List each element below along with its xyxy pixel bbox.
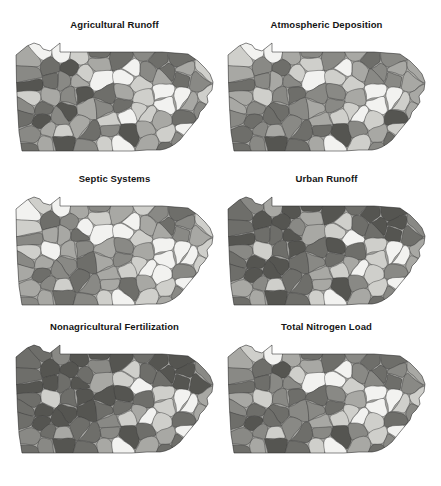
watershed-polygon <box>411 409 429 446</box>
watershed-polygon <box>171 434 188 464</box>
watershed-polygon <box>42 227 58 243</box>
watershed-polygon <box>254 227 270 243</box>
map-svg <box>224 186 429 318</box>
watershed-polygon <box>394 138 429 164</box>
watershed-polygon <box>182 138 217 164</box>
watershed-polygon <box>42 375 58 391</box>
map-svg <box>12 32 217 164</box>
watershed-polygon <box>192 273 217 296</box>
watershed-polygon <box>182 440 217 466</box>
watershed-polygon <box>192 421 217 444</box>
panel-title: Nonagricultural Fertilization <box>12 320 217 334</box>
watershed-polygon <box>53 290 76 318</box>
watershed-polygon <box>265 136 288 164</box>
panel-title: Atmospheric Deposition <box>224 18 429 32</box>
watershed-polygon <box>199 261 217 298</box>
watershed-polygon <box>224 428 253 445</box>
watershed-polygon <box>394 440 429 466</box>
pennsylvania-map <box>12 334 217 466</box>
figure-root: Agricultural Runoff Atmospheric Depositi… <box>0 0 441 486</box>
watershed-polygon <box>12 280 41 297</box>
map-panel-urban-runoff: Urban Runoff <box>224 172 429 322</box>
watershed-polygon <box>53 438 76 466</box>
watershed-polygon <box>383 286 400 316</box>
panel-title: Total Nitrogen Load <box>224 320 429 334</box>
panel-title: Urban Runoff <box>224 172 429 186</box>
pennsylvania-map <box>224 32 429 164</box>
watershed-polygon <box>265 438 288 466</box>
map-panel-total-nitrogen-load: Total Nitrogen Load <box>224 320 429 470</box>
pennsylvania-map <box>224 334 429 466</box>
watershed-polygon <box>12 126 41 143</box>
watershed-polygon <box>383 434 400 464</box>
watershed-polygon <box>265 290 288 318</box>
watershed-polygon <box>171 286 188 316</box>
watershed-polygon <box>42 73 58 89</box>
pennsylvania-map <box>224 186 429 318</box>
watershed-polygon <box>199 107 217 144</box>
map-svg <box>224 32 429 164</box>
watershed-polygon <box>411 107 429 144</box>
map-panel-agricultural-runoff: Agricultural Runoff <box>12 18 217 168</box>
pennsylvania-map <box>12 32 217 164</box>
map-panel-atmospheric-deposition: Atmospheric Deposition <box>224 18 429 168</box>
watershed-polygon <box>171 132 188 162</box>
watershed-polygon <box>404 273 429 296</box>
watershed-polygon <box>404 421 429 444</box>
watershed-polygon <box>254 73 270 89</box>
pennsylvania-map <box>12 186 217 318</box>
watershed-polygon <box>404 119 429 142</box>
watershed-polygon <box>411 261 429 298</box>
watershed-polygon <box>254 375 270 391</box>
map-svg <box>12 334 217 466</box>
watershed-polygon <box>383 132 400 162</box>
watershed-polygon <box>199 409 217 446</box>
watershed-polygon <box>224 126 253 143</box>
watershed-polygon <box>192 119 217 142</box>
watershed-polygon <box>182 292 217 318</box>
watershed-polygon <box>12 428 41 445</box>
watershed-polygon <box>224 280 253 297</box>
watershed-polygon <box>53 136 76 164</box>
map-panel-septic-systems: Septic Systems <box>12 172 217 322</box>
watershed-polygon <box>394 292 429 318</box>
map-svg <box>12 186 217 318</box>
panel-title: Septic Systems <box>12 172 217 186</box>
panel-title: Agricultural Runoff <box>12 18 217 32</box>
map-panel-nonagricultural-fertilization: Nonagricultural Fertilization <box>12 320 217 470</box>
map-svg <box>224 334 429 466</box>
